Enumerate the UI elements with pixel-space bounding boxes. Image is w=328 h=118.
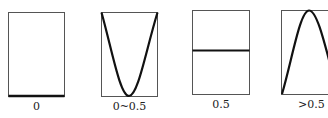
inverted-parabola-curve <box>282 11 328 95</box>
panel-label: >0.5 <box>298 98 328 111</box>
